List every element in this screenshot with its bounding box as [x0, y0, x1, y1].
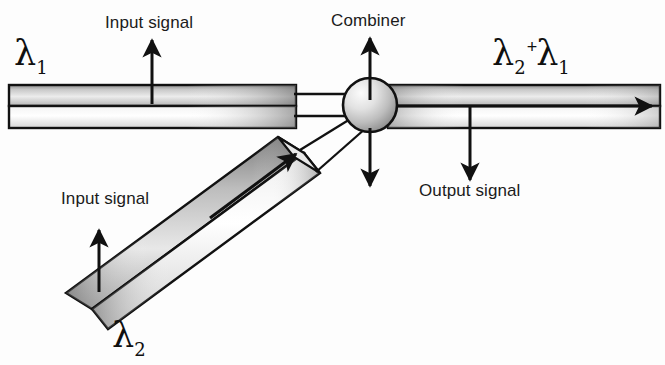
- lambda-sum-first-symbol: λ: [492, 33, 514, 73]
- lambda-2-symbol: λ: [112, 315, 134, 355]
- output-signal-label: Output signal: [419, 182, 520, 199]
- output-waveguide-top-shade: [388, 85, 660, 106]
- plus-sign: +: [527, 37, 538, 57]
- lambda-sum-second-subscript: 1: [558, 57, 569, 78]
- lambda-2-label: λ2: [112, 318, 146, 353]
- input-waveguide-diagonal: [66, 137, 320, 329]
- input-signal-diagonal-label: Input signal: [61, 190, 149, 207]
- lambda-2-subscript: 2: [134, 339, 145, 360]
- diagram-canvas: Input signal Input signal Combiner Outpu…: [0, 0, 665, 365]
- lambda-1-label: λ1: [14, 36, 48, 71]
- lambda-sum-first-subscript: 2: [514, 57, 525, 78]
- lambda-1-subscript: 1: [36, 57, 47, 78]
- diagonal-waveguide-top-shade: [66, 137, 304, 309]
- output-waveguide-front-shade: [388, 106, 660, 128]
- output-waveguide: [388, 85, 660, 128]
- combiner-label: Combiner: [331, 12, 406, 29]
- lambda-sum-second-symbol: λ: [536, 33, 558, 73]
- lambda-1-symbol: λ: [14, 33, 36, 73]
- lambda-sum-label: λ2+λ1: [492, 36, 570, 71]
- diagonal-waveguide-front-shade: [92, 153, 320, 329]
- input-waveguide-front-shade: [9, 106, 296, 128]
- input-signal-top-label: Input signal: [105, 14, 193, 31]
